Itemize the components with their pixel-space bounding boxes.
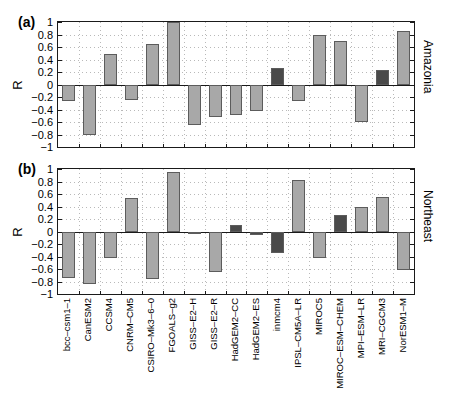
y-tick-mark <box>410 257 415 258</box>
y-tick-mark <box>57 219 62 220</box>
y-tick-mark <box>57 85 62 86</box>
y-tick-mark <box>410 207 415 208</box>
x-tick-mark <box>393 291 394 295</box>
y-tick-mark <box>410 269 415 270</box>
x-tick-mark <box>246 144 247 148</box>
x-tick-mark <box>184 291 185 295</box>
y-tick-mark <box>57 60 62 61</box>
y-tick-mark <box>57 169 62 170</box>
bar <box>250 85 263 111</box>
y-tick-mark <box>410 169 415 170</box>
y-tick-label: −0.2 <box>31 92 53 103</box>
y-tick-mark <box>410 60 415 61</box>
y-tick-label: 1 <box>47 164 53 175</box>
y-tick-mark <box>57 147 62 148</box>
x-tick-mark <box>205 144 206 148</box>
bar <box>146 44 159 85</box>
x-tick-mark <box>142 291 143 295</box>
y-tick-mark <box>410 22 415 23</box>
bar <box>167 22 180 85</box>
panel-b-plot-area <box>57 168 415 295</box>
y-tick-label: 0.8 <box>38 29 53 40</box>
y-tick-mark <box>57 294 62 295</box>
bar <box>313 232 326 259</box>
bar <box>397 232 410 270</box>
x-tick-mark <box>309 291 310 295</box>
y-tick-label: 0.4 <box>38 54 53 65</box>
y-tick-mark <box>410 72 415 73</box>
y-tick-mark <box>410 35 415 36</box>
x-tick-mark <box>205 291 206 295</box>
x-tick-mark <box>121 291 122 295</box>
bar <box>209 85 222 118</box>
x-tick-mark <box>246 291 247 295</box>
bar <box>209 232 222 272</box>
x-tick-label: GISS–E2–H <box>188 298 198 350</box>
y-tick-label: 0 <box>47 79 53 90</box>
x-tick-mark <box>79 144 80 148</box>
y-tick-label: 0.6 <box>38 42 53 53</box>
y-tick-mark <box>410 110 415 111</box>
y-tick-mark <box>410 47 415 48</box>
bar <box>125 85 138 100</box>
x-tick-mark <box>267 291 268 295</box>
y-tick-label: −1 <box>40 289 53 300</box>
y-tick-mark <box>410 194 415 195</box>
bar <box>376 70 389 84</box>
panel-b-bars <box>58 169 414 294</box>
x-tick-mark <box>288 144 289 148</box>
y-tick-label: −0.8 <box>31 276 53 287</box>
bar <box>146 232 159 280</box>
x-tick-mark <box>372 291 373 295</box>
y-tick-label: 0.4 <box>38 201 53 212</box>
x-tick-label: FGOALS–g2 <box>167 298 177 352</box>
bar <box>355 207 368 231</box>
y-tick-label: 0.2 <box>38 67 53 78</box>
region-label-amazonia: Amazonia <box>421 40 435 93</box>
bar <box>83 85 96 135</box>
bar <box>355 85 368 123</box>
bar <box>167 172 180 232</box>
x-tick-label: MIROC–ESM–CHEM <box>335 298 345 389</box>
y-tick-label: −0.2 <box>31 239 53 250</box>
y-tick-mark <box>57 269 62 270</box>
y-tick-mark <box>57 194 62 195</box>
x-tick-mark <box>163 144 164 148</box>
y-tick-label: −0.8 <box>31 129 53 140</box>
y-tick-mark <box>410 147 415 148</box>
bar <box>376 197 389 232</box>
y-tick-mark <box>57 232 62 233</box>
x-tick-mark <box>330 144 331 148</box>
y-tick-mark <box>57 244 62 245</box>
x-tick-mark <box>351 144 352 148</box>
bar <box>104 54 117 85</box>
y-tick-mark <box>57 110 62 111</box>
y-tick-mark <box>410 294 415 295</box>
x-tick-mark <box>351 291 352 295</box>
x-tick-label: NorESM1–M <box>398 298 408 352</box>
bar <box>125 198 138 232</box>
x-tick-label: CNRM–CM5 <box>126 298 136 352</box>
y-tick-label: 0.2 <box>38 214 53 225</box>
x-tick-label: GISS–E2–R <box>209 298 219 350</box>
y-tick-mark <box>57 135 62 136</box>
y-tick-label: −0.4 <box>31 251 53 262</box>
x-tick-mark <box>163 291 164 295</box>
bar <box>334 41 347 84</box>
x-tick-mark <box>393 144 394 148</box>
x-tick-mark <box>267 144 268 148</box>
bar <box>292 85 305 102</box>
y-tick-labels-a: 10.80.60.40.20−0.2−0.4−0.6−0.8−1 <box>19 21 53 148</box>
y-tick-mark <box>410 135 415 136</box>
bar <box>230 225 243 231</box>
y-tick-mark <box>410 122 415 123</box>
bar <box>292 180 305 232</box>
x-tick-label: MPI–ESM–LR <box>356 298 366 358</box>
y-tick-mark <box>57 22 62 23</box>
x-tick-label: inmcm4 <box>272 298 282 331</box>
y-tick-label: 0.8 <box>38 176 53 187</box>
x-tick-label: bcc–csm1–1 <box>63 298 73 351</box>
y-tick-mark <box>57 207 62 208</box>
bar <box>230 85 243 115</box>
y-tick-mark <box>410 244 415 245</box>
